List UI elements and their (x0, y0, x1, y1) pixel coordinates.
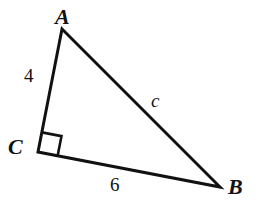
right-triangle-figure (0, 0, 260, 205)
vertex-label-c: C (8, 136, 23, 158)
vertex-label-b: B (228, 176, 243, 198)
side-length-label-ab: c (151, 91, 159, 110)
vertex-label-a: A (55, 6, 70, 28)
side-length-label-ac: 4 (24, 66, 34, 85)
side-length-label-cb: 6 (110, 175, 120, 194)
figure-background (0, 0, 260, 205)
